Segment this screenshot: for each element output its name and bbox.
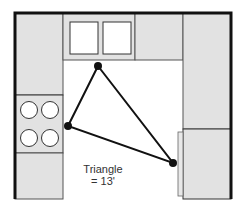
- left-counter-lower: [15, 153, 63, 199]
- burner-icon: [21, 102, 38, 119]
- refrigerator-point: [169, 159, 177, 167]
- triangle-length: = 13': [70, 175, 136, 187]
- range: [15, 95, 63, 153]
- triangle-label: Triangle: [70, 163, 136, 175]
- work-triangle: [64, 62, 177, 167]
- refrigerator: [178, 129, 231, 199]
- refrigerator-door: [178, 132, 183, 196]
- right-counter: [183, 13, 231, 129]
- sink-point: [94, 62, 102, 70]
- range-point: [64, 122, 72, 130]
- left-counter-upper: [15, 13, 63, 95]
- sink: [63, 13, 135, 60]
- sink-bowl-right: [103, 22, 131, 54]
- burner-icon: [42, 102, 59, 119]
- burner-icon: [21, 130, 38, 147]
- sink-bowl-left: [70, 22, 98, 54]
- top-counter: [135, 13, 183, 60]
- burner-icon: [42, 130, 59, 147]
